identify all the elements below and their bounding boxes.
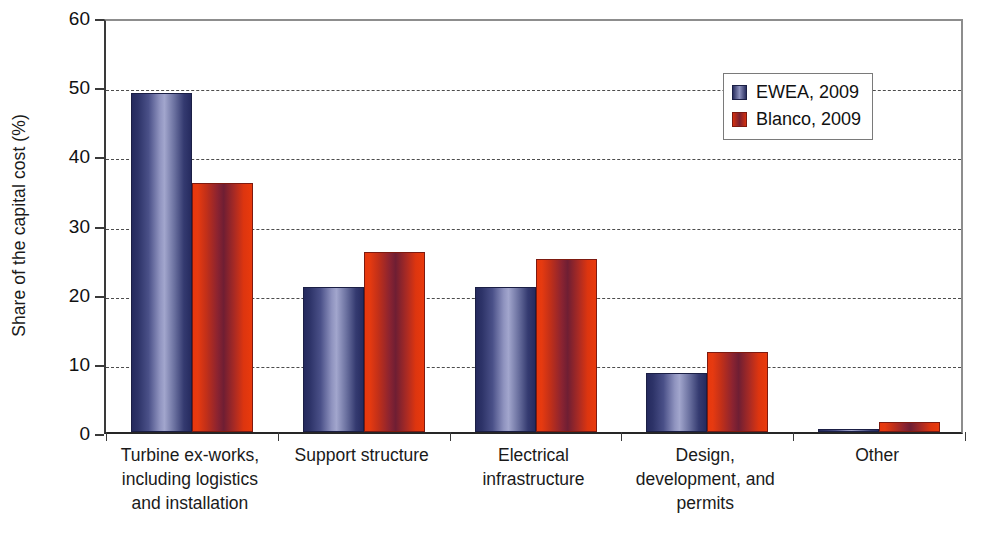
y-tick-mark-30	[95, 227, 104, 229]
blanco-swatch-icon	[732, 112, 747, 127]
y-tick-mark-10	[95, 365, 104, 367]
ewea-swatch-icon	[732, 85, 747, 100]
x-label-line: including logistics	[104, 467, 276, 491]
y-tick-label-20: 20	[30, 285, 90, 307]
category-separator-0	[106, 432, 107, 441]
y-axis-title-text: Share of the capital cost (%)	[9, 114, 30, 337]
chart-legend: EWEA, 2009 Blanco, 2009	[723, 73, 873, 140]
y-tick-label-30: 30	[30, 216, 90, 238]
x-label-line: permits	[619, 491, 791, 515]
x-axis-labels: Turbine ex-works,including logisticsand …	[104, 443, 963, 533]
y-tick-label-0: 0	[30, 423, 90, 445]
y-tick-label-50: 50	[30, 77, 90, 99]
x-label-line: infrastructure	[448, 467, 620, 491]
x-category-label-3: Design,development, andpermits	[619, 443, 791, 515]
x-label-line: development, and	[619, 467, 791, 491]
legend-item-ewea: EWEA, 2009	[732, 79, 861, 106]
x-label-line: and installation	[104, 491, 276, 515]
y-tick-label-40: 40	[30, 146, 90, 168]
legend-item-blanco: Blanco, 2009	[732, 106, 861, 133]
legend-label-blanco: Blanco, 2009	[756, 109, 861, 130]
category-separator-4	[793, 432, 794, 441]
y-tick-mark-20	[95, 296, 104, 298]
y-tick-mark-60	[95, 19, 104, 21]
y-tick-mark-0	[95, 434, 104, 436]
x-label-line: Other	[791, 443, 963, 467]
y-tick-mark-50	[95, 88, 104, 90]
category-separator-2	[450, 432, 451, 441]
category-separator-5	[965, 432, 966, 441]
x-category-label-0: Turbine ex-works,including logisticsand …	[104, 443, 276, 515]
y-tick-label-60: 60	[30, 8, 90, 30]
x-category-label-4: Other	[791, 443, 963, 467]
x-label-line: Support structure	[276, 443, 448, 467]
x-category-label-2: Electricalinfrastructure	[448, 443, 620, 491]
bar-chart-figure: Share of the capital cost (%) 0102030405…	[0, 0, 990, 535]
x-label-line: Turbine ex-works,	[104, 443, 276, 467]
x-label-line: Design,	[619, 443, 791, 467]
x-label-line: Electrical	[448, 443, 620, 467]
category-separator-1	[278, 432, 279, 441]
x-category-label-1: Support structure	[276, 443, 448, 467]
y-tick-label-10: 10	[30, 354, 90, 376]
category-separator-3	[621, 432, 622, 441]
y-tick-mark-40	[95, 157, 104, 159]
legend-label-ewea: EWEA, 2009	[756, 82, 859, 103]
